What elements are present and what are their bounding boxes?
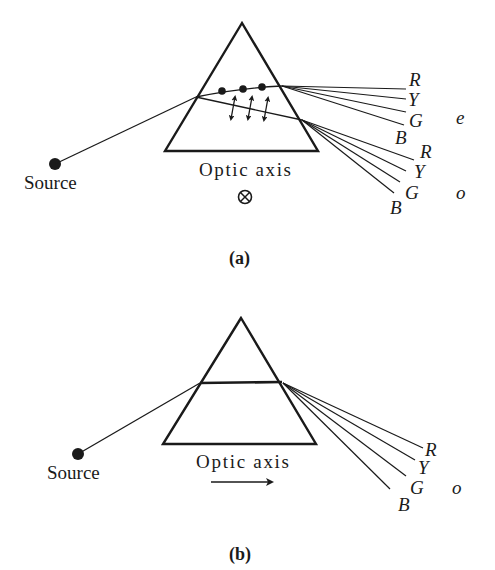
b-label-g: G: [410, 477, 424, 498]
o-label-g: G: [405, 182, 419, 203]
e-ray-inside: [196, 86, 282, 97]
e-label-y: Y: [408, 89, 421, 110]
o-label-b: B: [390, 197, 402, 218]
ray-inside-b: [200, 382, 282, 383]
e-beam-label: e: [456, 107, 464, 128]
panel-a: R Y G B e R Y G B o Source Optic axis (a…: [24, 23, 466, 269]
b-label-b: B: [398, 494, 410, 515]
optic-axis-label-a: Optic axis: [199, 159, 291, 180]
polarization-double-arrow: [264, 98, 268, 120]
source-label-b: Source: [47, 462, 100, 483]
o-ray-fan-b: [283, 383, 423, 489]
caption-a: (a): [229, 248, 250, 269]
o-label-y: Y: [414, 161, 427, 182]
e-label-b: B: [395, 127, 407, 148]
caption-b: (b): [229, 544, 251, 565]
polarization-dot: [258, 83, 266, 91]
source-label-a: Source: [24, 172, 77, 193]
polarization-double-arrow: [231, 97, 235, 119]
optic-axis-label-b: Optic axis: [196, 451, 289, 472]
e-label-g: G: [409, 110, 423, 131]
b-beam-label: o: [452, 477, 462, 498]
o-label-r: R: [419, 141, 432, 162]
incident-ray-a: [55, 97, 196, 164]
panel-b: R Y G B o Source Optic axis (b): [47, 318, 462, 565]
birefringent-prism-figure: R Y G B e R Y G B o Source Optic axis (a…: [0, 0, 495, 570]
prism-b: [163, 318, 316, 444]
polarization-dot: [239, 85, 247, 93]
polarization-dot: [218, 87, 226, 95]
b-label-y: Y: [418, 457, 431, 478]
o-beam-label: o: [456, 182, 466, 203]
into-page-axis-icon: [239, 191, 252, 204]
e-label-r: R: [408, 69, 421, 90]
